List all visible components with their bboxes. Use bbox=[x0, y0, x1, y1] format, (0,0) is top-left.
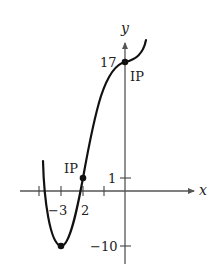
x-axis-label: x bbox=[199, 182, 207, 198]
tick-label-neg10: −10 bbox=[90, 239, 117, 254]
function-graph: x y −3 2 1 −10 17 IP IP bbox=[0, 0, 210, 270]
y-axis-label: y bbox=[120, 20, 130, 36]
ip-label-upper: IP bbox=[130, 69, 144, 84]
ip-label-lower: IP bbox=[64, 161, 78, 176]
tick-label-neg3: −3 bbox=[48, 203, 67, 218]
tick-label-17: 17 bbox=[100, 55, 117, 70]
inflection-point-lower bbox=[80, 175, 87, 182]
tick-label-1: 1 bbox=[108, 171, 116, 186]
inflection-point-upper bbox=[122, 59, 129, 66]
tick-label-neg2: 2 bbox=[81, 203, 89, 218]
minimum-point bbox=[58, 243, 65, 250]
